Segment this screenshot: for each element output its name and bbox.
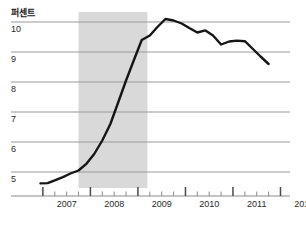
x-tick-label: 2010 — [199, 199, 219, 209]
series-line-percent — [41, 19, 269, 183]
y-tick-label: 8 — [11, 84, 16, 94]
x-axis-ticks — [43, 187, 281, 196]
x-tick-label: 2012 — [294, 199, 306, 209]
y-tick-label: 9 — [11, 54, 16, 64]
y-tick-label: 10 — [11, 24, 21, 34]
data-line — [41, 19, 269, 183]
y-tick-label: 5 — [11, 174, 16, 184]
x-tick-label: 2007 — [57, 199, 77, 209]
x-tick-label: 2011 — [247, 199, 266, 209]
x-tick-label: 2009 — [152, 199, 172, 209]
chart-container: 퍼센트 5678910 200720082009201020112012 — [0, 0, 306, 228]
y-tick-label: 7 — [11, 114, 16, 124]
chart-plot-area — [0, 0, 306, 228]
y-tick-label: 6 — [11, 144, 16, 154]
x-tick-label: 2008 — [104, 199, 124, 209]
